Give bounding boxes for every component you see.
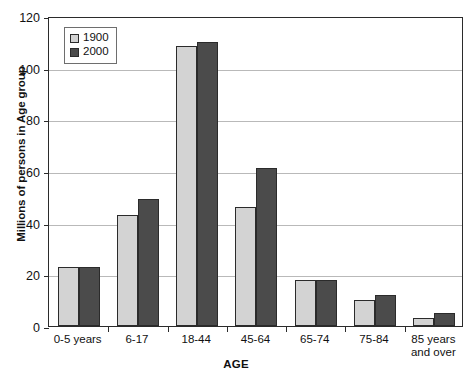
y-tick-label: 100 (19, 63, 40, 77)
bar-2000 (197, 42, 218, 326)
legend: 1900 2000 (64, 27, 117, 64)
x-tick-mark (345, 326, 346, 332)
bar-group (168, 18, 227, 326)
bar-2000 (79, 267, 100, 326)
y-tick-label: 20 (26, 269, 40, 283)
bar-chart: Millions of persons in Age group 0204060… (0, 0, 472, 373)
x-axis-title: AGE (0, 358, 472, 370)
legend-item-2000: 2000 (70, 45, 109, 59)
y-tick-label: 60 (26, 166, 40, 180)
legend-label-2000: 2000 (83, 46, 109, 58)
bar-2000 (316, 280, 337, 327)
legend-swatch-2000-icon (70, 48, 79, 57)
bar-1900 (295, 280, 316, 327)
bar-group (286, 18, 345, 326)
bar-1900 (235, 207, 256, 326)
x-category-label: 0-5 years (48, 333, 107, 346)
legend-label-1900: 1900 (83, 32, 109, 44)
x-category-label: 75-84 (344, 333, 403, 346)
x-tick-mark (168, 326, 169, 332)
bar-2000 (138, 199, 159, 326)
plot-area: 020406080100120 1900 2000 (48, 17, 463, 327)
bar-2000 (434, 313, 455, 326)
x-category-label: 65-74 (285, 333, 344, 346)
x-tick-mark (405, 326, 406, 332)
bar-2000 (256, 168, 277, 326)
x-category-label: 6-17 (107, 333, 166, 346)
bar-1900 (176, 46, 197, 326)
bar-group (405, 18, 464, 326)
x-tick-mark (108, 326, 109, 332)
bar-group (227, 18, 286, 326)
bar-1900 (354, 300, 375, 326)
y-tick-label: 80 (26, 114, 40, 128)
x-category-label: 85 years and over (404, 333, 463, 359)
bar-1900 (413, 318, 434, 326)
bar-group (108, 18, 167, 326)
y-tick-label: 120 (19, 11, 40, 25)
x-category-label: 18-44 (167, 333, 226, 346)
bars-layer (49, 18, 462, 326)
bar-1900 (117, 215, 138, 326)
y-tick-mark (44, 328, 49, 329)
bar-1900 (58, 267, 79, 326)
y-tick-label: 0 (33, 321, 40, 335)
bar-group (345, 18, 404, 326)
legend-item-1900: 1900 (70, 31, 109, 45)
x-tick-mark (227, 326, 228, 332)
x-category-label: 45-64 (226, 333, 285, 346)
x-tick-mark (286, 326, 287, 332)
bar-group (49, 18, 108, 326)
y-tick-label: 40 (26, 218, 40, 232)
legend-swatch-1900-icon (70, 34, 79, 43)
bar-2000 (375, 295, 396, 326)
